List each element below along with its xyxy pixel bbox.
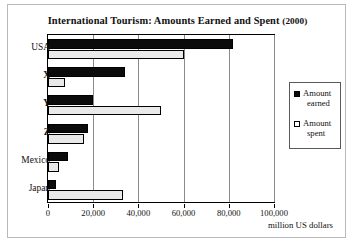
legend-item-amount-spent[interactable]: Amountspent — [294, 119, 340, 138]
bar-japan-spent — [48, 190, 123, 200]
bar-group-mexico — [48, 152, 274, 172]
bar-mexico-earned — [48, 152, 68, 162]
gridline-100000 — [274, 35, 275, 202]
legend-label-line2-amount-earned: earned — [303, 99, 340, 109]
y-axis-label-japan: Japan — [0, 183, 50, 193]
bar-group-usa — [48, 39, 274, 59]
bar-z-spent — [48, 134, 84, 144]
gridline-80000 — [229, 35, 230, 202]
plot-area — [47, 34, 275, 203]
bar-y-spent — [48, 106, 161, 116]
bar-x-spent — [48, 78, 65, 88]
bar-group-japan — [48, 180, 274, 200]
bar-group-z — [48, 124, 274, 144]
x-axis-tick-label-60000: 60,000 — [172, 208, 196, 218]
x-axis-tick-label-0: 0 — [46, 208, 50, 218]
bar-z-earned — [48, 124, 88, 134]
y-axis-label-y: Y — [0, 98, 50, 108]
bar-x-earned — [48, 67, 125, 77]
bar-usa-earned — [48, 39, 233, 49]
legend-label-line2-amount-spent: spent — [303, 129, 340, 139]
x-axis-title: million US dollars — [8, 220, 333, 230]
gridline-40000 — [138, 35, 139, 202]
bar-group-y — [48, 95, 274, 115]
chart-title: International Tourism: Amounts Earned an… — [8, 15, 347, 26]
x-axis-tick-label-40000: 40,000 — [127, 208, 151, 218]
chart-legend: AmountearnedAmountspent — [289, 82, 341, 149]
y-axis-label-z: Z — [0, 127, 50, 137]
legend-swatch-amount-earned — [294, 91, 300, 97]
x-axis-tick-label-100000: 100,000 — [260, 208, 288, 218]
x-axis-tick-label-20000: 20,000 — [81, 208, 105, 218]
y-axis-label-mexico: Mexico — [0, 155, 50, 165]
legend-label-amount-spent: Amountspent — [294, 119, 340, 138]
y-axis-label-x: X — [0, 70, 50, 80]
gridline-20000 — [93, 35, 94, 202]
legend-swatch-amount-spent — [294, 121, 300, 127]
chart-frame: International Tourism: Amounts Earned an… — [7, 4, 346, 238]
chart-title-main: International Tourism: Amounts Earned an… — [48, 15, 280, 26]
y-axis-label-usa: USA — [0, 42, 50, 52]
bar-group-x — [48, 67, 274, 87]
chart-title-year: (2000) — [282, 16, 307, 26]
legend-label-amount-earned: Amountearned — [294, 89, 340, 108]
gridline-60000 — [184, 35, 185, 202]
x-axis-tick-label-80000: 80,000 — [217, 208, 241, 218]
legend-item-amount-earned[interactable]: Amountearned — [294, 89, 340, 108]
bar-y-earned — [48, 95, 93, 105]
bar-usa-spent — [48, 50, 184, 60]
